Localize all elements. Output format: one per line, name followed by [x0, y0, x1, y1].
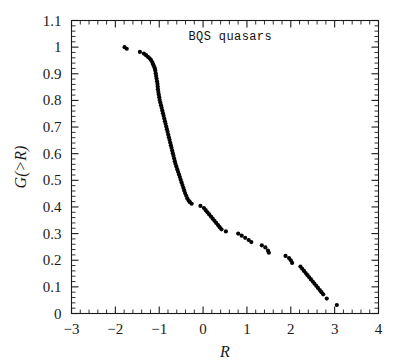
- data-point: [240, 234, 244, 238]
- data-point: [290, 261, 294, 265]
- data-point: [321, 292, 325, 296]
- y-axis-tick-label: 0.5: [43, 172, 62, 188]
- x-axis-tick-label: 0: [199, 321, 207, 337]
- data-point: [224, 229, 228, 233]
- plot-annotation: BQS quasars: [188, 30, 272, 44]
- y-axis-tick-label: 0.2: [43, 252, 62, 268]
- y-axis-tick-label: 0.8: [43, 92, 62, 108]
- x-axis-title: R: [219, 343, 230, 360]
- data-point: [236, 231, 240, 235]
- y-axis-tick-label: 0.6: [43, 146, 62, 162]
- data-series-group: [122, 45, 338, 307]
- y-axis-tick-label: 1.1: [43, 13, 62, 29]
- y-axis-tick-label: 0: [54, 306, 62, 322]
- x-axis-tick-label: 4: [375, 321, 383, 337]
- x-axis-tick-label: 1: [243, 321, 251, 337]
- data-point: [249, 240, 253, 244]
- y-axis-tick-label: 0.7: [43, 119, 62, 135]
- plot-frame: [72, 21, 379, 314]
- y-axis-tick-label: 0.4: [43, 199, 62, 215]
- x-axis-tick-label: −1: [151, 321, 167, 337]
- x-axis-tick-label: −3: [64, 321, 80, 337]
- y-axis-tick-label: 0.3: [43, 226, 62, 242]
- y-axis-tick-label: 0.9: [43, 66, 62, 82]
- data-point: [198, 204, 202, 208]
- data-point: [125, 47, 129, 51]
- data-point: [190, 202, 194, 206]
- data-point: [243, 236, 247, 240]
- data-point: [219, 227, 223, 231]
- data-point: [283, 254, 287, 258]
- figure-container: −3−2−101234R00.10.20.30.40.50.60.70.80.9…: [0, 0, 399, 364]
- data-point: [325, 296, 329, 300]
- x-axis-tick-label: 2: [287, 321, 295, 337]
- x-axis-tick-label: 3: [331, 321, 339, 337]
- y-axis-tick-label: 1: [54, 39, 62, 55]
- data-point: [138, 50, 142, 54]
- x-axis-tick-label: −2: [107, 321, 123, 337]
- data-point: [260, 243, 264, 247]
- data-point: [335, 303, 339, 307]
- data-point: [267, 251, 271, 255]
- scatter-plot: −3−2−101234R00.10.20.30.40.50.60.70.80.9…: [0, 0, 399, 364]
- y-axis-tick-label: 0.1: [43, 279, 62, 295]
- y-axis-title: G(>R): [12, 146, 30, 189]
